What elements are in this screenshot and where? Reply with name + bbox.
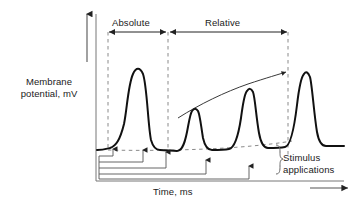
relative-period-label: Relative	[205, 17, 240, 29]
absolute-period-label: Absolute	[112, 17, 150, 29]
refractory-period-figure: Absolute Relative Membrane potential, mV…	[0, 0, 357, 207]
recovery-envelope-arrow	[178, 72, 286, 118]
stimulus-arrow-3	[99, 152, 166, 168]
y-axis-label: Membrane potential, mV	[12, 76, 86, 99]
stimulus-applications-label: Stimulus applications	[283, 152, 353, 176]
stimulus-application-arrows	[99, 149, 249, 179]
x-axis-label: Time, ms	[153, 186, 193, 198]
membrane-potential-trace	[97, 69, 344, 151]
dashed-guide-lines	[108, 32, 288, 156]
stimulus-brace	[276, 145, 283, 174]
